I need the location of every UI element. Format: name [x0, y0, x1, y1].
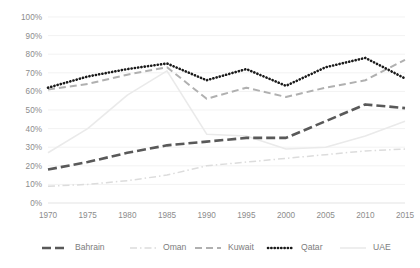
y-tick-label: 50%: [26, 106, 42, 115]
x-tick-label: 1995: [237, 211, 256, 220]
x-tick-label: 1980: [118, 211, 137, 220]
chart-legend: BahrainOmanKuwaitQatarUAE: [42, 242, 391, 252]
legend-label-qatar[interactable]: Qatar: [301, 242, 323, 252]
line-chart: 0%10%20%30%40%50%60%70%80%90%100% 197019…: [0, 0, 420, 268]
chart-container: 0%10%20%30%40%50%60%70%80%90%100% 197019…: [0, 0, 420, 268]
gridlines: [48, 17, 405, 203]
y-tick-label: 100%: [21, 13, 42, 22]
y-tick-label: 40%: [26, 125, 42, 134]
x-tick-label: 1970: [39, 211, 58, 220]
y-tick-label: 70%: [26, 69, 42, 78]
x-tick-label: 1975: [79, 211, 98, 220]
y-axis-tick-labels: 0%10%20%30%40%50%60%70%80%90%100%: [21, 13, 42, 208]
x-tick-label: 1985: [158, 211, 177, 220]
legend-label-kuwait[interactable]: Kuwait: [228, 242, 254, 252]
y-tick-label: 80%: [26, 50, 42, 59]
y-tick-label: 20%: [26, 162, 42, 171]
y-tick-label: 0%: [30, 199, 42, 208]
x-tick-label: 2005: [317, 211, 336, 220]
x-tick-label: 2015: [396, 211, 415, 220]
x-tick-label: 2000: [277, 211, 296, 220]
data-series-group: [48, 58, 405, 186]
legend-label-bahrain[interactable]: Bahrain: [75, 242, 105, 252]
legend-label-uae[interactable]: UAE: [373, 242, 391, 252]
y-tick-label: 30%: [26, 143, 42, 152]
series-line-bahrain: [48, 104, 405, 169]
x-axis-tick-labels: 1970197519801985199019952000200520102015: [39, 211, 415, 220]
series-line-kuwait: [48, 60, 405, 99]
y-tick-label: 10%: [26, 180, 42, 189]
y-tick-label: 90%: [26, 32, 42, 41]
x-tick-label: 1990: [198, 211, 217, 220]
legend-label-oman[interactable]: Oman: [163, 242, 187, 252]
y-tick-label: 60%: [26, 87, 42, 96]
series-line-oman: [48, 149, 405, 186]
x-tick-label: 2010: [356, 211, 375, 220]
